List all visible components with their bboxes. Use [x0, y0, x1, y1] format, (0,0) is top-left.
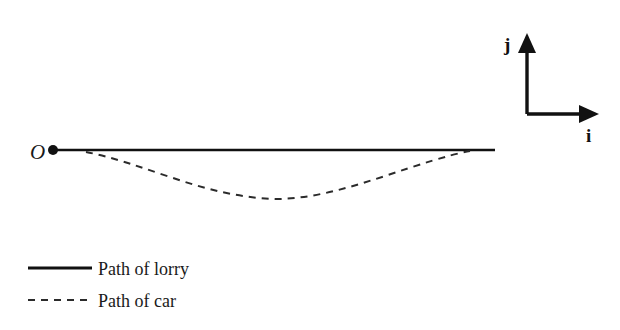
legend-label-car: Path of car — [98, 291, 176, 311]
j-vector-label: j — [503, 34, 510, 55]
origin-label: O — [30, 140, 45, 164]
i-vector-label: i — [586, 125, 591, 146]
path-diagram-figure: O j i Path of lorry Path of car — [0, 0, 620, 330]
legend-label-lorry: Path of lorry — [98, 259, 189, 279]
